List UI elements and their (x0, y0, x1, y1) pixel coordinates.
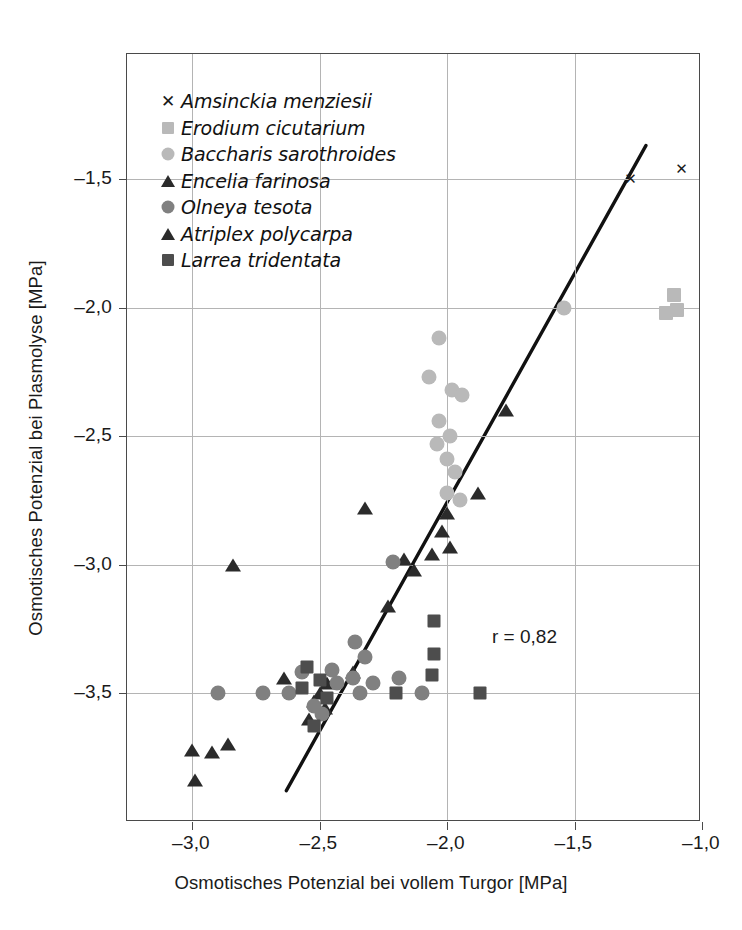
y-gridline (127, 308, 699, 309)
data-point (300, 661, 313, 674)
data-point (414, 686, 429, 701)
legend-marker-square-icon (155, 250, 181, 270)
legend-item-atriplex-polycarpa: Atriplex polycarpa (155, 221, 396, 248)
data-point (390, 687, 403, 700)
data-point (442, 429, 457, 444)
legend-marker-square-icon (155, 118, 181, 138)
data-point (184, 743, 200, 756)
y-tick (119, 565, 127, 566)
x-tick (192, 822, 193, 830)
y-tick-label: –2,5 (56, 424, 112, 446)
data-point (428, 648, 441, 661)
x-axis-title: Osmotisches Potenzial bei vollem Turgor … (0, 872, 742, 894)
data-point (380, 599, 396, 612)
data-point (432, 331, 447, 346)
legend-item-amsinckia-menziesii: ✕Amsinckia menziesii (155, 88, 396, 115)
data-point (204, 746, 220, 759)
y-tick (119, 308, 127, 309)
data-point (348, 634, 363, 649)
legend-marker-glyph (161, 228, 175, 240)
data-point (276, 671, 292, 684)
data-point (447, 464, 462, 479)
legend-item-label: Encelia farinosa (181, 170, 330, 192)
data-point (424, 548, 440, 561)
legend-marker-glyph: ✕ (161, 93, 175, 110)
y-tick (119, 179, 127, 180)
y-gridline (127, 436, 699, 437)
correlation-annotation: r = 0,82 (492, 626, 557, 648)
legend-marker-x-icon: ✕ (155, 91, 181, 111)
data-point (358, 650, 373, 665)
legend-item-larrea-tridentata: Larrea tridentata (155, 247, 396, 274)
x-tick-label: –3,0 (172, 832, 210, 854)
x-tick (575, 822, 576, 830)
data-point (386, 554, 401, 569)
data-point (366, 675, 381, 690)
y-tick-label: –3,5 (56, 681, 112, 703)
y-tick-label: –2,0 (56, 296, 112, 318)
legend-marker-triangle-icon (155, 224, 181, 244)
data-point (470, 486, 486, 499)
y-tick (119, 693, 127, 694)
chart-legend: ✕Amsinckia menziesiiErodium cicutariumBa… (155, 88, 396, 274)
x-tick (320, 822, 321, 830)
data-point (474, 687, 487, 700)
data-point (321, 692, 334, 705)
y-tick (119, 436, 127, 437)
legend-marker-circle-icon (155, 144, 181, 164)
legend-item-baccharis-sarothroides: Baccharis sarothroides (155, 141, 396, 168)
data-point (428, 615, 441, 628)
data-point (330, 675, 345, 690)
legend-marker-glyph (161, 175, 175, 187)
legend-marker-glyph (162, 122, 174, 134)
data-point (357, 501, 373, 514)
legend-marker-triangle-icon (155, 171, 181, 191)
data-point: ✕ (624, 172, 637, 187)
x-tick (702, 822, 703, 830)
data-point (439, 507, 455, 520)
data-point (455, 387, 470, 402)
x-tick-label: –2,5 (300, 832, 338, 854)
legend-item-label: Atriplex polycarpa (181, 223, 353, 245)
data-point (313, 674, 326, 687)
data-point (256, 686, 271, 701)
data-point (308, 720, 321, 733)
data-point (210, 686, 225, 701)
legend-marker-glyph (162, 201, 175, 214)
x-tick-label: –1,5 (555, 832, 593, 854)
data-point (281, 686, 296, 701)
data-point (295, 681, 308, 694)
legend-marker-circle-icon (155, 197, 181, 217)
legend-item-label: Erodium cicutarium (181, 117, 366, 139)
y-tick-label: –3,0 (56, 553, 112, 575)
x-tick (447, 822, 448, 830)
legend-item-label: Larrea tridentata (181, 249, 341, 271)
data-point (391, 670, 406, 685)
x-tick-label: –2,0 (427, 832, 465, 854)
data-point (225, 558, 241, 571)
data-point (220, 738, 236, 751)
data-point (187, 774, 203, 787)
data-point (315, 706, 330, 721)
data-point (425, 669, 438, 682)
data-point (442, 540, 458, 553)
data-point (406, 563, 422, 576)
legend-item-olneya-tesota: Olneya tesota (155, 194, 396, 221)
data-point (452, 493, 467, 508)
data-point (353, 686, 368, 701)
data-point (670, 303, 684, 317)
data-point (422, 369, 437, 384)
legend-item-label: Amsinckia menziesii (181, 90, 372, 112)
legend-item-label: Baccharis sarothroides (181, 143, 396, 165)
legend-item-encelia-farinosa: Encelia farinosa (155, 168, 396, 195)
x-tick-label: –1,0 (682, 832, 720, 854)
data-point (345, 670, 360, 685)
data-point (667, 288, 681, 302)
data-point (557, 300, 572, 315)
scatter-plot-figure: ✕✕ ✕Amsinckia menziesiiErodium cicutariu… (0, 0, 742, 930)
x-gridline (575, 54, 576, 820)
data-point: ✕ (675, 161, 688, 176)
legend-marker-glyph (162, 254, 174, 266)
y-tick-label: –1,5 (56, 167, 112, 189)
data-point (434, 525, 450, 538)
